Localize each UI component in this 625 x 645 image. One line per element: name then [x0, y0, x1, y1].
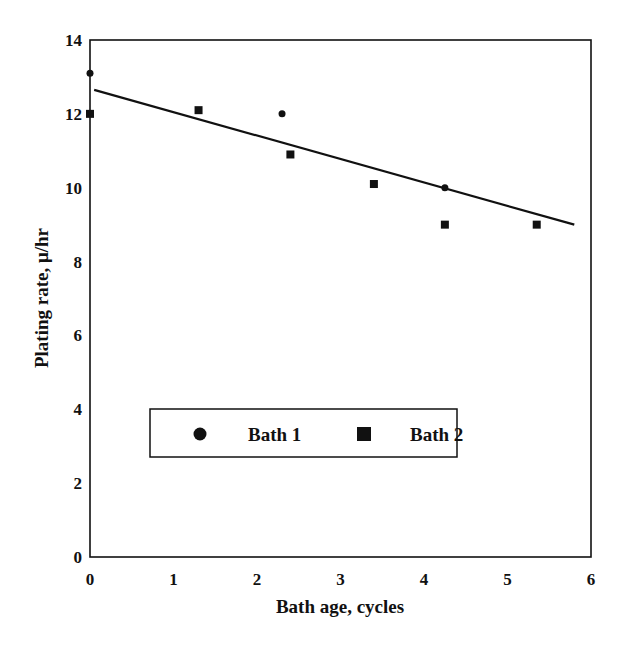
circle-marker-icon — [194, 428, 207, 441]
square-marker-icon — [357, 427, 371, 441]
x-tick-label: 6 — [587, 570, 596, 589]
y-tick-label: 12 — [65, 105, 82, 124]
legend: Bath 1 Bath 2 — [150, 409, 463, 457]
y-tick-label: 14 — [65, 31, 83, 50]
x-tick-label: 4 — [420, 570, 429, 589]
y-tick-label: 10 — [65, 179, 82, 198]
x-tick-label: 5 — [503, 570, 512, 589]
bath-2-point — [533, 221, 541, 229]
bath-2-point — [195, 106, 203, 114]
plating-rate-chart: 02468101214 0123456 Bath age, cycles Pla… — [0, 0, 625, 645]
bath-2-point — [370, 180, 378, 188]
legend-label-bath-1: Bath 1 — [248, 424, 301, 445]
x-axis-ticks: 0123456 — [86, 570, 596, 589]
y-tick-label: 2 — [74, 474, 83, 493]
legend-label-bath-2: Bath 2 — [410, 424, 463, 445]
y-axis-title: Plating rate, μ/hr — [31, 227, 52, 368]
bath-2-point — [286, 150, 294, 158]
plot-frame — [90, 40, 591, 557]
y-axis-ticks: 02468101214 — [65, 31, 83, 567]
x-axis-title: Bath age, cycles — [276, 596, 404, 617]
x-tick-label: 0 — [86, 570, 95, 589]
y-tick-label: 0 — [74, 548, 83, 567]
bath-1-point — [441, 184, 448, 191]
y-tick-label: 6 — [74, 326, 83, 345]
x-tick-label: 1 — [169, 570, 178, 589]
plot-border — [90, 40, 591, 557]
linear-fit-line — [94, 90, 574, 225]
y-tick-label: 8 — [74, 253, 83, 272]
y-tick-label: 4 — [74, 400, 83, 419]
trendline — [94, 90, 574, 225]
bath-1-point — [279, 110, 286, 117]
data-points — [86, 70, 541, 229]
x-tick-label: 3 — [336, 570, 345, 589]
bath-1-point — [87, 70, 94, 77]
bath-2-point — [86, 110, 94, 118]
bath-2-point — [441, 221, 449, 229]
x-tick-label: 2 — [253, 570, 262, 589]
